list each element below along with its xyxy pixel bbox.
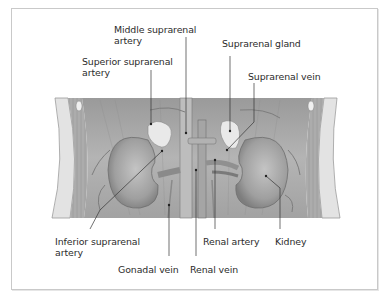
label-line: artery (82, 67, 173, 78)
label-line: artery (114, 35, 196, 46)
label-superior-suprarenal-artery: Superior suprarenal artery (82, 56, 173, 78)
label-line: Middle suprarenal (114, 24, 196, 35)
label-line: Inferior suprarenal (55, 236, 140, 247)
label-suprarenal-vein: Suprarenal vein (248, 71, 321, 82)
label-gonadal-vein: Gonadal vein (118, 264, 179, 275)
left-kidney (108, 137, 158, 208)
label-renal-vein: Renal vein (190, 264, 238, 275)
label-inferior-suprarenal-artery: Inferior suprarenal artery (55, 236, 140, 258)
label-line: Superior suprarenal (82, 56, 173, 67)
label-kidney: Kidney (275, 236, 306, 247)
label-line: artery (55, 247, 140, 258)
label-middle-suprarenal-artery: Middle suprarenal artery (114, 24, 196, 46)
label-renal-artery: Renal artery (203, 236, 259, 247)
label-suprarenal-gland: Suprarenal gland (222, 38, 301, 49)
